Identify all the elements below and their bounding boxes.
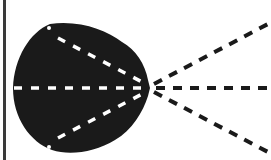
diagram-canvas (0, 0, 271, 160)
blob-notch-top (47, 26, 51, 30)
outer-ray-upper (154, 24, 268, 84)
outer-ray-lower (154, 92, 268, 152)
outer-dashed-rays (154, 24, 271, 152)
blob-notch-bottom (47, 145, 51, 149)
